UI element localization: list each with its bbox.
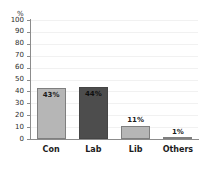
y-axis-tick-label: 100	[11, 17, 24, 24]
bar-data-label: 1%	[163, 129, 192, 136]
category-label-lab: Lab	[72, 145, 114, 155]
y-axis-tick-mark	[27, 139, 30, 140]
x-axis-line	[30, 139, 199, 140]
bar-chart: % 1009080706050403020100 43%44%11%1% Con…	[0, 0, 205, 169]
y-axis-tick-label: 40	[15, 88, 24, 95]
x-axis-category-labels: ConLabLibOthers	[30, 145, 199, 159]
category-label-lib: Lib	[115, 145, 157, 155]
y-axis-tick-label: 80	[15, 40, 24, 47]
bar-group[interactable]: 44%	[79, 20, 108, 139]
y-axis-tick-label: 10	[15, 124, 24, 131]
bar-group[interactable]: 1%	[163, 20, 192, 139]
category-label-con: Con	[30, 145, 72, 155]
y-axis-tick-labels: 1009080706050403020100	[0, 0, 28, 169]
category-label-others: Others	[157, 145, 199, 155]
y-axis-tick-label: 60	[15, 64, 24, 71]
bar-data-label: 44%	[79, 91, 108, 98]
y-axis-tick-label: 0	[20, 136, 24, 143]
bar-others[interactable]	[163, 137, 192, 139]
y-axis-tick-label: 90	[15, 28, 24, 35]
y-axis-tick-label: 50	[15, 76, 24, 83]
y-axis-tick-label: 70	[15, 52, 24, 59]
bar-group[interactable]: 43%	[37, 20, 66, 139]
bar-data-label: 11%	[121, 117, 150, 124]
bar-lib[interactable]	[121, 126, 150, 139]
y-axis-tick-label: 30	[15, 100, 24, 107]
bar-group[interactable]: 11%	[121, 20, 150, 139]
bars-layer: 43%44%11%1%	[30, 20, 199, 139]
bar-data-label: 43%	[37, 92, 66, 99]
y-axis-tick-label: 20	[15, 112, 24, 119]
